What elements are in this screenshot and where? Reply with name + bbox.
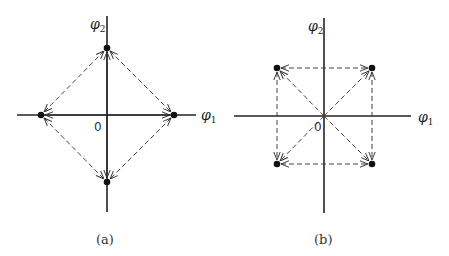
vacuum-point: [274, 161, 281, 168]
vacuum-point: [38, 112, 45, 119]
phi2-label-b: φ2: [308, 19, 324, 36]
panel-a: [17, 16, 196, 212]
diagram-canvas: [0, 0, 449, 256]
phi2-label-a: φ2: [90, 17, 106, 34]
vacuum-point: [104, 179, 111, 186]
origin-label-b: 0: [314, 121, 322, 133]
phi1-label-a: φ1: [201, 108, 217, 125]
vacuum-point: [369, 161, 376, 168]
vacuum-point: [171, 112, 178, 119]
caption-b: (b): [314, 233, 332, 246]
vacuum-point: [369, 65, 376, 72]
origin-label-a: 0: [94, 121, 102, 133]
panel-b: [234, 18, 411, 213]
vacuum-point: [104, 45, 111, 52]
figure: φ2 φ1 0 (a) φ2 φ1 0 (b): [0, 0, 449, 256]
phi1-label-b: φ1: [418, 110, 434, 127]
caption-a: (a): [96, 233, 114, 246]
vacuum-point: [274, 65, 281, 72]
